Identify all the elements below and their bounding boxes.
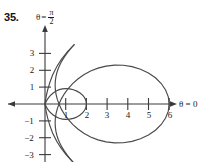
x-tick-label-5: 5	[144, 110, 154, 120]
horizontal-axis	[8, 101, 177, 107]
y-tick-label-minus-1: −1	[21, 116, 37, 126]
x-tick-label-2: 2	[82, 110, 92, 120]
y-tick-label-1: 1	[27, 82, 37, 92]
y-tick-label-2: 2	[27, 65, 37, 75]
x-tick-label-6: 6	[165, 110, 175, 120]
x-tick-label-3: 3	[102, 110, 112, 120]
y-tick-label-3: 3	[27, 48, 37, 58]
x-tick-label-1: 1	[61, 110, 71, 120]
y-tick-label-minus-3: −3	[21, 150, 37, 160]
y-tick-label-minus-2: −2	[21, 133, 37, 143]
limacon-outer-loop-lower	[55, 44, 169, 142]
x-tick-label-4: 4	[123, 110, 133, 120]
